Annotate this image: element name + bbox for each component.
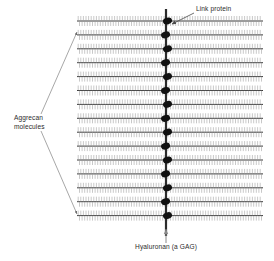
aggrecan-molecule: [77, 30, 263, 40]
diagram-canvas: Link protein Aggrecan molecules Hyaluron…: [0, 0, 274, 261]
link-protein: [162, 128, 173, 137]
aggrecan-leader-arrow-upper: [41, 32, 77, 114]
label-link-protein: Link protein: [196, 5, 232, 13]
aggrecan-molecule: [77, 58, 263, 68]
aggrecan-leader-arrow-lower: [41, 131, 77, 214]
aggrecan-molecule: [77, 169, 263, 179]
label-aggrecan-line1: Aggrecan: [14, 114, 43, 122]
label-hyaluronan: Hyaluronan (a GAG): [135, 243, 197, 251]
link-protein: [162, 155, 173, 164]
aggrecan-hyaluronan-diagram: Link protein Aggrecan molecules Hyaluron…: [0, 0, 274, 261]
label-aggrecan-line2: molecules: [14, 123, 45, 130]
link-protein: [162, 100, 173, 109]
aggrecan-molecule: [77, 113, 263, 123]
link-protein: [162, 16, 173, 25]
aggrecan-molecule: [77, 86, 263, 96]
link-protein: [162, 183, 173, 192]
link-protein-leader-arrow: [172, 13, 194, 24]
link-protein: [162, 72, 173, 81]
aggrecan-molecule: [77, 141, 263, 151]
link-protein: [162, 44, 173, 53]
aggrecan-molecule: [77, 197, 263, 207]
link-protein: [162, 211, 173, 220]
